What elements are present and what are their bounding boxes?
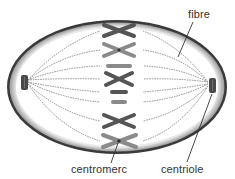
chromosome <box>110 90 128 94</box>
centriole-label: centriole <box>161 164 203 175</box>
centromere <box>117 139 121 143</box>
chromosome <box>111 100 127 104</box>
fibre-label: fibre <box>188 9 210 20</box>
centromere <box>117 48 120 51</box>
centromere-label: centromerc <box>71 164 127 175</box>
chromosome <box>106 64 132 68</box>
metaphase-cell-diagram <box>0 0 235 179</box>
centriole-left <box>21 75 28 90</box>
centriole-right <box>209 78 216 93</box>
